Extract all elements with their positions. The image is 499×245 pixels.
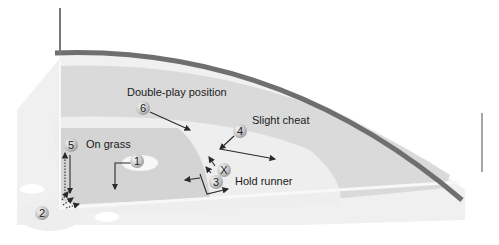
runner-x: X: [217, 163, 231, 177]
label-on-grass: On grass: [86, 138, 131, 150]
home-plate-area: [18, 199, 82, 231]
player-5-third-base: 5: [64, 138, 78, 152]
player-4-label: 4: [237, 125, 243, 137]
label-slight-cheat: Slight cheat: [252, 114, 309, 126]
player-2-catcher: 2: [35, 206, 49, 220]
player-6-shortstop: 6: [136, 101, 150, 115]
label-hold-runner: Hold runner: [235, 175, 293, 187]
player-2-label: 2: [39, 207, 45, 219]
on-deck-circle-right: [95, 212, 119, 222]
baseball-positioning-diagram: 6 4 5 1 X 3 2: [0, 0, 499, 245]
player-3-first-base: 3: [209, 175, 223, 189]
player-5-label: 5: [68, 139, 74, 151]
field: [17, 8, 482, 231]
runner-x-label: X: [220, 164, 228, 176]
player-1-pitcher: 1: [130, 154, 144, 168]
player-3-label: 3: [213, 176, 219, 188]
on-deck-circle-left: [20, 184, 44, 194]
player-6-label: 6: [140, 102, 146, 114]
label-double-play-position: Double-play position: [127, 86, 227, 98]
player-4-second-base: 4: [233, 124, 247, 138]
player-1-label: 1: [134, 155, 140, 167]
